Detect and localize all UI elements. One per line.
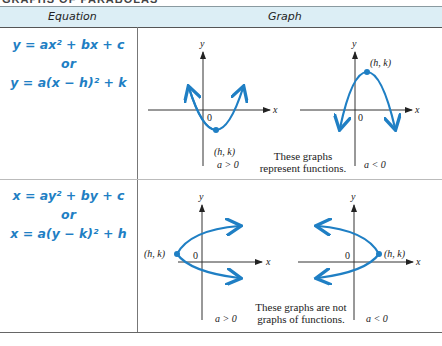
equation-standard-vertical: y = ax² + bx + c [0,36,137,54]
svg-text:0: 0 [345,250,350,261]
svg-text:y: y [351,38,357,49]
equation-standard-horizontal: x = ay² + by + c [0,187,137,205]
note-not-functions: These graphs are not graphs of functions… [246,301,356,325]
page-title: GRAPHS OF PARABOLAS [2,0,158,5]
table-header: Equation Graph [0,6,442,28]
svg-text:(h, k): (h, k) [384,248,406,260]
note-functions: These graphs represent functions. [253,150,353,174]
equation-or-2: or [0,206,137,224]
svg-text:a > 0: a > 0 [215,313,237,324]
note-line: graphs of functions. [246,313,356,325]
svg-text:x: x [415,256,421,267]
svg-text:x: x [265,256,271,267]
svg-text:x: x [414,104,420,115]
svg-text:y: y [350,191,356,202]
header-equation: Equation [48,10,97,23]
svg-text:y: y [199,38,205,49]
note-line: represent functions. [253,162,353,174]
graph-panel: y x 0 (h, k) a > 0 y x 0 (h, k) a < 0 y [138,27,442,333]
svg-text:a < 0: a < 0 [364,159,386,170]
svg-text:a > 0: a > 0 [217,159,239,170]
svg-text:0: 0 [207,112,212,123]
svg-text:(h, k): (h, k) [214,146,236,158]
svg-text:y: y [198,191,204,202]
header-graph: Graph [268,10,302,23]
svg-text:(h, k): (h, k) [370,57,392,69]
note-line: These graphs are not [246,301,356,313]
svg-text:a < 0: a < 0 [366,313,388,324]
svg-text:(h, k): (h, k) [144,248,166,260]
equation-or: or [0,55,137,73]
equation-vertex-vertical: y = a(x − h)² + k [0,74,137,92]
svg-text:0: 0 [358,112,363,123]
svg-text:x: x [272,104,278,115]
svg-text:0: 0 [193,250,198,261]
equation-vertex-horizontal: x = a(y − k)² + h [0,225,137,243]
note-line: These graphs [253,150,353,162]
